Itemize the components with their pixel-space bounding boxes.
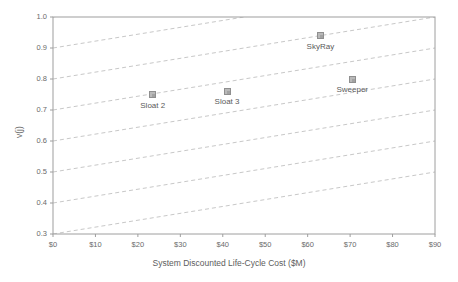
data-point-marker-inner: [227, 91, 230, 94]
y-tick-label: 0.7: [15, 105, 47, 114]
data-point-label: SkyRay: [280, 42, 360, 51]
x-tick-label: $80: [373, 240, 413, 249]
y-tick-label: 0.4: [15, 198, 47, 207]
data-point-marker[interactable]: [349, 76, 356, 83]
y-tick-label: 0.8: [15, 74, 47, 83]
y-axis-title: v(j): [14, 126, 24, 138]
y-tick-label: 0.3: [15, 229, 47, 238]
y-tick-label: 1.0: [15, 12, 47, 21]
x-tick-label: $0: [33, 240, 73, 249]
plot-background: [53, 17, 435, 234]
iso-preference-line: [53, 0, 435, 17]
data-point-marker-inner: [152, 94, 155, 97]
data-point-label: Sweeper: [312, 85, 392, 94]
data-point-marker[interactable]: [149, 91, 156, 98]
data-point-marker[interactable]: [224, 88, 231, 95]
data-point-marker[interactable]: [317, 32, 324, 39]
x-tick-label: $50: [245, 240, 285, 249]
data-point-label: Sloat 3: [187, 97, 267, 106]
x-tick-label: $30: [160, 240, 200, 249]
x-axis-title: System Discounted Life-Cycle Cost ($M): [0, 258, 458, 268]
y-tick-label: 0.9: [15, 43, 47, 52]
x-tick-label: $90: [415, 240, 455, 249]
data-point-marker-inner: [352, 79, 355, 82]
x-tick-label: $20: [118, 240, 158, 249]
x-tick-label: $70: [330, 240, 370, 249]
chart-container: 0.30.40.50.60.70.80.91.0 $0$10$20$30$40$…: [0, 0, 458, 282]
data-point-label: Sloat 2: [113, 101, 193, 110]
x-tick-label: $40: [203, 240, 243, 249]
x-tick-label: $60: [288, 240, 328, 249]
data-point-marker-inner: [320, 35, 323, 38]
x-tick-label: $10: [75, 240, 115, 249]
y-tick-label: 0.5: [15, 167, 47, 176]
